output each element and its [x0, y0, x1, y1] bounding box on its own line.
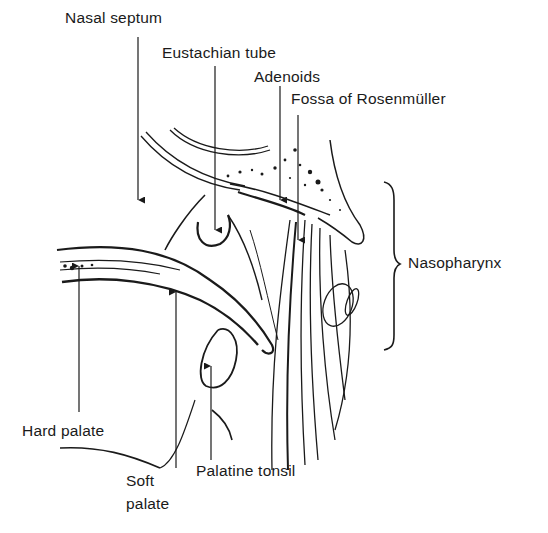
label-nasal-septum: Nasal septum	[65, 9, 162, 27]
nasopharynx-diagram: Nasal septum Eustachian tube Adenoids Fo…	[0, 0, 548, 533]
label-nasopharynx: Nasopharynx	[408, 254, 502, 272]
hard-soft-palate	[57, 247, 273, 353]
nasopharynx-brace	[384, 182, 400, 350]
pharyngeal-wall	[272, 220, 362, 470]
label-soft-palate-line1: Soft	[126, 472, 154, 490]
label-fossa-of-rosenmuller: Fossa of Rosenmüller	[291, 90, 446, 108]
label-palatine-tonsil: Palatine tonsil	[196, 462, 296, 480]
label-adenoids: Adenoids	[254, 68, 320, 86]
label-hard-palate: Hard palate	[22, 422, 104, 440]
pointer-arrows	[79, 37, 298, 468]
palatine-tonsil-shape	[60, 329, 237, 468]
eustachian-torus	[165, 195, 278, 340]
label-eustachian-tube: Eustachian tube	[162, 44, 276, 62]
label-soft-palate-line2: palate	[126, 495, 169, 513]
skull-base-arcs	[141, 128, 270, 190]
